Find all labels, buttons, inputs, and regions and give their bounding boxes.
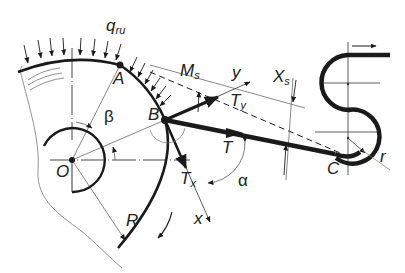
label-A: A [113, 70, 124, 87]
label-q-ru: qru [106, 17, 125, 36]
drum-body-outline [20, 66, 122, 268]
label-x: x [194, 210, 203, 227]
label-B: B [148, 106, 159, 123]
label-Ms: Ms [180, 62, 200, 81]
drum-arc [18, 60, 168, 248]
label-R: R [126, 212, 138, 229]
upper-roller [321, 55, 390, 110]
label-y: y [232, 64, 241, 81]
label-Ty: Ty [230, 92, 246, 111]
point-A [117, 62, 124, 69]
label-Xs: Xs [273, 68, 290, 87]
point-B [161, 116, 169, 124]
label-r: r [380, 148, 386, 165]
label-alpha: α [238, 172, 248, 189]
label-Tx: Tx [180, 170, 196, 189]
diagram-canvas: qru A Ms y Xs Ty B β T O Tx α R x C r [0, 0, 405, 273]
center-O [69, 157, 75, 163]
label-O: O [56, 163, 69, 180]
label-T: T [222, 139, 232, 156]
Ty-vector [165, 97, 218, 120]
label-beta: β [104, 108, 114, 125]
xs-vertical [286, 78, 293, 180]
diagram-drawing [0, 0, 405, 273]
belt-segment [165, 120, 335, 154]
label-C: C [327, 160, 339, 177]
load-arrows [24, 38, 171, 106]
